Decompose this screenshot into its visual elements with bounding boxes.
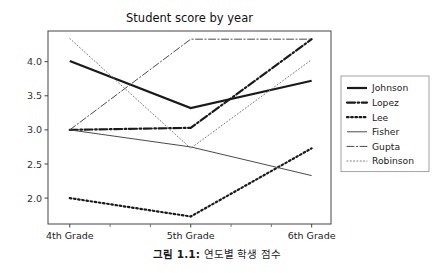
series-line-lee bbox=[70, 148, 312, 216]
y-axis-tick-label: 3.5 bbox=[27, 90, 42, 101]
series-line-lopez bbox=[70, 39, 312, 130]
figure-caption-text: 연도별 학생 점수 bbox=[204, 248, 282, 260]
figure-caption-number: 그림 1.1: bbox=[153, 248, 200, 260]
legend-label-lee: Lee bbox=[372, 112, 389, 123]
figure-caption: 그림 1.1: 연도별 학생 점수 bbox=[0, 246, 434, 261]
legend-label-gupta: Gupta bbox=[372, 141, 400, 152]
y-axis-tick-label: 4.0 bbox=[27, 56, 42, 67]
line-chart: Student score by year2.02.53.03.54.04th … bbox=[0, 0, 434, 273]
legend-label-johnson: Johnson bbox=[371, 82, 408, 93]
x-axis-tick-label: 6th Grade bbox=[288, 230, 336, 241]
y-axis-tick-label: 3.0 bbox=[27, 124, 42, 135]
x-axis-tick-label: 5th Grade bbox=[167, 230, 215, 241]
legend-label-robinson: Robinson bbox=[372, 155, 414, 166]
series-line-johnson bbox=[70, 61, 312, 108]
series-line-robinson bbox=[70, 39, 312, 149]
x-axis-tick-label: 4th Grade bbox=[46, 230, 94, 241]
y-axis-tick-label: 2.0 bbox=[27, 193, 42, 204]
chart-title: Student score by year bbox=[126, 11, 253, 25]
y-axis-tick-label: 2.5 bbox=[27, 159, 42, 170]
series-line-gupta bbox=[70, 39, 312, 130]
legend-label-fisher: Fisher bbox=[372, 126, 399, 137]
legend-label-lopez: Lopez bbox=[372, 97, 399, 108]
figure-container: Student score by year2.02.53.03.54.04th … bbox=[0, 0, 434, 273]
